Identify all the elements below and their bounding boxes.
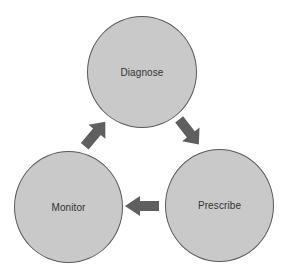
node-label-diagnose: Diagnose [120, 67, 163, 78]
cycle-diagram: Diagnose Prescribe Monitor [0, 0, 288, 275]
node-prescribe: Prescribe [165, 149, 274, 262]
arrow-down-right-icon [170, 113, 207, 152]
arrow-left-icon [125, 196, 159, 216]
node-diagnose: Diagnose [87, 16, 197, 128]
arrow-up-right-icon [76, 115, 113, 154]
node-monitor: Monitor [14, 151, 123, 263]
node-label-prescribe: Prescribe [198, 200, 241, 211]
node-label-monitor: Monitor [51, 202, 85, 213]
